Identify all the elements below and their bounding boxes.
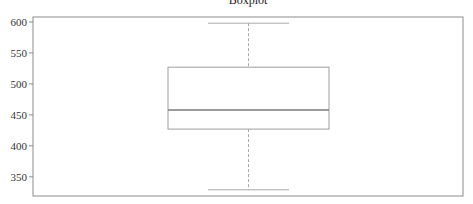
y-tick-label: 600 [11, 16, 28, 28]
boxplot-chart: Boxplot 350400450500550600 [0, 0, 473, 204]
y-tick-label: 550 [11, 47, 28, 59]
y-axis: 350400450500550600 [11, 16, 34, 183]
chart-title: Boxplot [229, 0, 268, 7]
y-tick-label: 400 [11, 140, 28, 152]
y-tick-label: 350 [11, 171, 28, 183]
y-tick-label: 450 [11, 109, 28, 121]
y-tick-label: 500 [11, 78, 28, 90]
iqr-box [168, 67, 329, 129]
